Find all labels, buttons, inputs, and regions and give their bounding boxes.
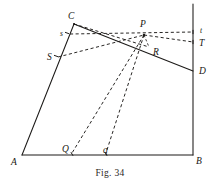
dashed-C-to-R [74,24,149,47]
label-s-lower: s [60,29,63,38]
geometry-diagram: C s S P R t T D A B Q q [0,0,220,192]
vertex-dot-C [73,23,75,25]
label-T-upper: T [199,38,205,48]
figure-container: C s S P R t T D A B Q q Fig. 34 [0,0,220,192]
dashed-P-to-T [144,35,193,42]
solid-outline-group [22,4,193,155]
figure-caption: Fig. 34 [0,168,220,178]
label-S-upper: S [47,52,52,62]
vertex-dot-group [73,23,145,36]
segment-CD [74,24,193,71]
label-C: C [68,11,75,21]
vertex-dot-P [143,34,146,37]
dashed-P-to-q [106,35,144,153]
segment-AC [22,24,74,155]
dashed-s-to-t [70,32,193,34]
tick-on-AC-at-s [65,32,69,33]
label-R: R [152,47,159,57]
tick-on-AC-at-S [54,55,58,56]
dashed-P-to-Q [72,35,144,153]
label-P: P [139,19,146,29]
label-Q-upper: Q [62,144,69,154]
tick-mark-group [54,30,193,156]
label-A: A [10,157,17,167]
label-D: D [198,66,206,76]
label-q-lower: q [103,145,108,155]
label-t-lower: t [200,26,203,35]
label-B: B [196,156,202,166]
dashed-construction-group [58,24,193,153]
